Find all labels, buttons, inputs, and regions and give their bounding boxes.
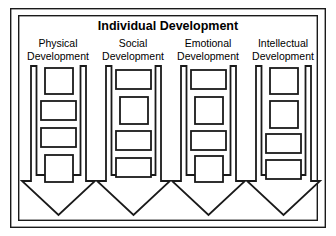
individual-development-diagram: Individual Development Physical Developm… [0,0,336,236]
column-intellectual-node-4[interactable] [266,160,301,179]
column-social-label-line1: Social [119,37,148,49]
diagram-title: Individual Development [98,19,239,33]
column-intellectual-node-2[interactable] [270,101,298,128]
column-social-node-1[interactable] [116,70,151,89]
diagram-root: Individual Development Physical Developm… [0,0,336,236]
column-intellectual-node-1[interactable] [270,68,298,94]
column-emotional-label-line1: Emotional [185,37,232,49]
column-physical-label-line1: Physical [38,37,77,49]
column-emotional-node-1[interactable] [191,70,226,89]
column-physical-node-4[interactable] [45,155,73,182]
column-social-label-line2: Development [102,50,164,62]
column-emotional-node-3[interactable] [191,131,226,150]
column-physical-node-2[interactable] [41,101,76,120]
column-physical-node-1[interactable] [45,68,73,94]
column-intellectual-label-line2: Development [252,50,314,62]
column-social-node-4[interactable] [116,158,151,177]
column-intellectual-label-line1: Intellectual [258,37,308,49]
column-emotional-label-line2: Development [177,50,239,62]
column-emotional-node-4[interactable] [195,156,223,182]
column-emotional-node-2[interactable] [195,97,223,124]
column-intellectual-node-3[interactable] [266,134,301,153]
column-social-node-3[interactable] [116,131,151,150]
column-social-node-2[interactable] [120,97,148,124]
column-physical-label-line2: Development [27,50,89,62]
column-physical-node-3[interactable] [41,128,76,147]
